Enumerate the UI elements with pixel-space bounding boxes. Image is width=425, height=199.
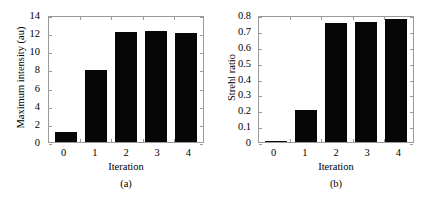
y-tick-mark [49, 17, 52, 18]
y-tick-mark [200, 71, 203, 72]
y-tick-mark [410, 96, 413, 97]
bar-slot [171, 17, 201, 142]
x-tick-mark [80, 139, 81, 142]
y-tick-mark [259, 17, 262, 18]
y-tick-mark [259, 49, 262, 50]
y-tick-mark [49, 35, 52, 36]
y-tick-label: 0.6 [238, 43, 251, 53]
x-tick-label: 4 [186, 145, 191, 161]
y-tick-mark [410, 17, 413, 18]
panel-a-y-tick-labels: 02468101214 [14, 0, 40, 199]
bar-slot [51, 17, 81, 142]
y-tick-mark [410, 49, 413, 50]
y-tick-mark [49, 71, 52, 72]
x-tick-label: 2 [333, 145, 338, 161]
x-tick-label: 2 [123, 145, 128, 161]
y-tick-mark [259, 81, 262, 82]
y-tick-label: 0.3 [238, 90, 251, 100]
bar [325, 23, 347, 142]
x-tick-mark [143, 139, 144, 142]
panel-b-caption: (b) [258, 178, 414, 190]
y-tick-mark [200, 17, 203, 18]
bar-slot [291, 17, 321, 142]
y-tick-label: 0.1 [238, 122, 251, 132]
y-tick-mark [49, 126, 52, 127]
x-tick-mark [174, 139, 175, 142]
bar [85, 70, 107, 142]
x-tick-mark [290, 139, 291, 142]
x-tick-mark [111, 139, 112, 142]
bar-slot [261, 17, 291, 142]
bar [355, 22, 377, 142]
x-tick-label: 3 [365, 145, 370, 161]
y-tick-label: 12 [30, 29, 41, 39]
panel-b-plot-area [258, 16, 414, 143]
panel-a-plot-area [48, 16, 204, 143]
x-tick-mark [321, 139, 322, 142]
y-tick-mark [200, 35, 203, 36]
y-tick-label: 2 [35, 120, 40, 130]
x-tick-mark [353, 17, 354, 20]
y-tick-label: 10 [30, 47, 41, 57]
y-tick-mark [410, 33, 413, 34]
y-tick-mark [200, 108, 203, 109]
bar [295, 110, 317, 142]
y-tick-mark [200, 90, 203, 91]
y-tick-mark [200, 53, 203, 54]
bar-slot [141, 17, 171, 142]
x-tick-mark [353, 139, 354, 142]
y-tick-label: 0.8 [238, 11, 251, 21]
x-tick-mark [143, 17, 144, 20]
bar [265, 141, 287, 142]
y-tick-label: 0 [35, 138, 40, 148]
panel-b-bars [259, 17, 413, 142]
bar-slot [321, 17, 351, 142]
y-tick-mark [410, 65, 413, 66]
x-tick-label: 4 [396, 145, 401, 161]
x-tick-mark [174, 17, 175, 20]
bar [115, 32, 137, 142]
y-tick-mark [49, 90, 52, 91]
panel-a-x-tick-labels: 01234 [48, 145, 204, 161]
panel-b-y-tick-labels: 00.10.20.30.40.50.60.70.8 [225, 0, 251, 199]
panel-b: Strehl ratio 00.10.20.30.40.50.60.70.8 0… [212, 0, 425, 199]
bar [55, 132, 77, 142]
bar-slot [381, 17, 411, 142]
y-tick-mark [410, 81, 413, 82]
bar-slot [111, 17, 141, 142]
y-tick-mark [259, 112, 262, 113]
y-tick-mark [49, 53, 52, 54]
y-tick-label: 0.2 [238, 106, 251, 116]
panel-a-bars [49, 17, 203, 142]
bar [145, 31, 167, 142]
x-tick-label: 1 [92, 145, 97, 161]
x-tick-label: 3 [155, 145, 160, 161]
panel-a-caption: (a) [48, 178, 204, 190]
y-tick-mark [259, 65, 262, 66]
y-tick-mark [259, 96, 262, 97]
x-tick-mark [290, 17, 291, 20]
bar-slot [81, 17, 111, 142]
bar [175, 33, 197, 142]
y-tick-mark [410, 128, 413, 129]
x-tick-label: 0 [61, 145, 66, 161]
y-tick-label: 6 [35, 84, 40, 94]
panel-a: Maximum intensity (au) 02468101214 01234… [0, 0, 212, 199]
y-tick-mark [259, 33, 262, 34]
y-tick-label: 0.5 [238, 59, 251, 69]
x-tick-mark [384, 17, 385, 20]
y-tick-label: 0.4 [238, 75, 251, 85]
x-tick-mark [111, 17, 112, 20]
y-tick-label: 0.7 [238, 27, 251, 37]
x-tick-label: 0 [271, 145, 276, 161]
y-tick-mark [200, 126, 203, 127]
x-tick-mark [80, 17, 81, 20]
x-tick-label: 1 [302, 145, 307, 161]
figure-two-panel-bar-charts: Maximum intensity (au) 02468101214 01234… [0, 0, 425, 199]
panel-a-x-axis-label: Iteration [48, 161, 204, 173]
y-tick-mark [49, 108, 52, 109]
y-tick-label: 4 [35, 102, 40, 112]
panel-b-x-tick-labels: 01234 [258, 145, 414, 161]
y-tick-mark [259, 128, 262, 129]
y-tick-label: 14 [30, 11, 41, 21]
